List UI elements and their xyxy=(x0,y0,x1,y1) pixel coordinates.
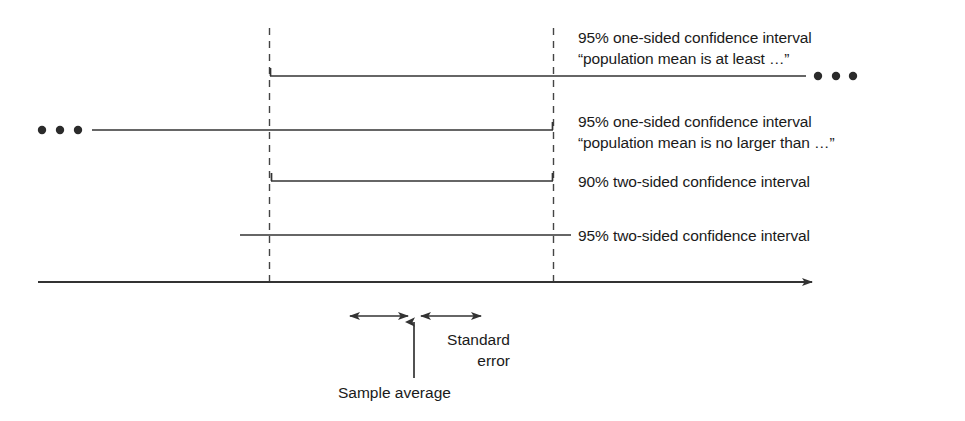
ellipsis-dots-left xyxy=(38,126,82,134)
standard-error-label-line-2: error xyxy=(428,350,510,371)
interval-label-line-2: “population mean is at least …” xyxy=(578,48,812,69)
sample-average-label: Sample average xyxy=(338,382,451,403)
interval-label-line-1: 95% one-sided confidence interval xyxy=(578,111,835,132)
standard-error-label: Standard error xyxy=(428,329,510,371)
interval-label-line-1: 95% one-sided confidence interval xyxy=(578,27,812,48)
standard-error-label-line-1: Standard xyxy=(428,329,510,350)
interval-label-ci-90-two-sided: 90% two-sided confidence interval xyxy=(578,171,810,192)
interval-ci-95-one-sided-upper xyxy=(92,122,553,130)
interval-ci-90-two-sided xyxy=(271,173,553,181)
interval-label-line-2: “population mean is no larger than …” xyxy=(578,132,835,153)
interval-label-ci-95-two-sided: 95% two-sided confidence interval xyxy=(578,225,810,246)
ellipsis-dots-right xyxy=(814,72,857,80)
interval-label-line-1: 95% two-sided confidence interval xyxy=(578,225,810,246)
confidence-interval-diagram: 95% one-sided confidence interval “popul… xyxy=(0,0,965,421)
interval-label-ci-95-one-sided-upper: 95% one-sided confidence interval “popul… xyxy=(578,111,835,153)
interval-label-ci-95-one-sided-lower: 95% one-sided confidence interval “popul… xyxy=(578,27,812,69)
interval-ci-95-one-sided-lower xyxy=(270,68,806,76)
interval-label-line-1: 90% two-sided confidence interval xyxy=(578,171,810,192)
